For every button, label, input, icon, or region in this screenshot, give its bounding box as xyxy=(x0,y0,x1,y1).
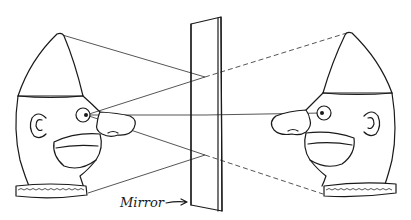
diagram-canvas: Mirror xyxy=(0,0,411,220)
observer-ear-inner xyxy=(36,120,42,131)
observer-pupil xyxy=(84,113,88,117)
image-ear-inner xyxy=(368,118,374,129)
ray-eye-to-mirror-upper xyxy=(86,77,205,115)
image-head-back xyxy=(385,93,395,184)
mirror-outline xyxy=(191,17,222,211)
dashed-ray-to-image-collar xyxy=(205,155,323,194)
dashed-ray-to-image-cap xyxy=(205,32,350,77)
image-ear xyxy=(364,112,380,136)
mirror-image-head xyxy=(271,32,396,196)
observer-head xyxy=(16,33,135,197)
ray-cap-to-mirror xyxy=(59,34,205,77)
ray-collar-to-mirror xyxy=(88,155,205,193)
image-pupil xyxy=(320,111,324,115)
observer-collar xyxy=(16,184,87,198)
mirror-label: Mirror xyxy=(119,195,165,210)
mirror-diagram: Mirror xyxy=(0,0,411,220)
mirror-right-edge xyxy=(221,17,222,211)
observer-cap xyxy=(18,33,83,96)
observer-head-back xyxy=(16,96,30,188)
observer-ear xyxy=(30,114,46,138)
mirror-label-arrow-icon xyxy=(166,199,187,205)
image-mouth xyxy=(305,132,355,166)
mirror xyxy=(191,17,222,211)
image-cap xyxy=(323,32,392,93)
